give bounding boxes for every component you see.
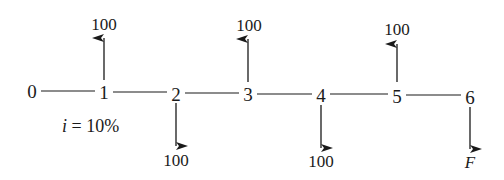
cash-flow-amount-5: 100 bbox=[384, 21, 410, 38]
period-label-3: 3 bbox=[243, 85, 253, 104]
period-label-2: 2 bbox=[171, 85, 181, 104]
cash-flow-amount-6: F bbox=[465, 154, 475, 171]
period-label-0: 0 bbox=[27, 82, 37, 101]
period-label-1: 1 bbox=[99, 83, 109, 102]
cash-flow-amount-3: 100 bbox=[236, 17, 262, 34]
interest-value: = 10% bbox=[67, 116, 119, 136]
cash-flow-amount-2: 100 bbox=[163, 152, 189, 169]
period-label-6: 6 bbox=[465, 88, 475, 107]
period-label-5: 5 bbox=[392, 87, 402, 106]
interest-rate-label: i = 10% bbox=[62, 117, 119, 135]
cash-flow-amount-1: 100 bbox=[91, 16, 117, 33]
period-label-4: 4 bbox=[316, 86, 326, 105]
cash-flow-amount-4: 100 bbox=[308, 153, 334, 170]
